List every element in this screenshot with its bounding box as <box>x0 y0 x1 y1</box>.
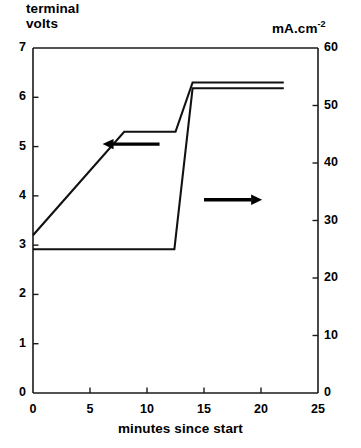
data-series-current-density <box>33 88 284 249</box>
right-tick-label-50: 50 <box>324 98 350 112</box>
data-series-terminal-volts <box>33 83 284 236</box>
left-tick-label-7: 7 <box>4 40 26 54</box>
left-tick-label-4: 4 <box>4 188 26 202</box>
right-tick-label-40: 40 <box>324 155 350 169</box>
x-tick-label-25: 25 <box>303 402 333 416</box>
right-tick-label-0: 0 <box>324 385 350 399</box>
left-arrow-head <box>103 139 114 149</box>
left-tick-label-5: 5 <box>4 139 26 153</box>
x-tick-label-20: 20 <box>246 402 276 416</box>
right-arrow-head <box>251 195 262 205</box>
left-arrow <box>103 139 160 149</box>
axis-frame <box>33 48 318 393</box>
right-tick-label-10: 10 <box>324 328 350 342</box>
right-tick-label-20: 20 <box>324 270 350 284</box>
x-tick-label-15: 15 <box>189 402 219 416</box>
right-tick-label-60: 60 <box>324 40 350 54</box>
x-tick-label-10: 10 <box>132 402 162 416</box>
data-curves <box>33 83 284 250</box>
x-tick-label-0: 0 <box>18 402 48 416</box>
right-arrow <box>204 195 262 205</box>
plot-area <box>0 0 361 448</box>
x-tick-label-5: 5 <box>75 402 105 416</box>
left-tick-label-2: 2 <box>4 286 26 300</box>
left-tick-label-3: 3 <box>4 237 26 251</box>
left-tick-label-0: 0 <box>4 385 26 399</box>
left-tick-label-6: 6 <box>4 89 26 103</box>
left-tick-label-1: 1 <box>4 336 26 350</box>
chart-figure: terminal volts mA.cm-2 minutes since sta… <box>0 0 361 448</box>
right-tick-label-30: 30 <box>324 213 350 227</box>
